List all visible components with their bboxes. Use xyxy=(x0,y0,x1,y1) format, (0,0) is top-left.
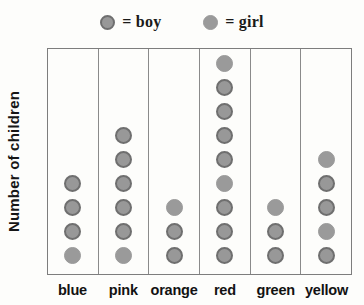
boy-dot-icon xyxy=(216,199,233,216)
girl-dot-icon xyxy=(166,199,183,216)
x-axis-label-green: green xyxy=(250,277,301,303)
dot-plot-area xyxy=(47,48,352,275)
girl-dot-icon xyxy=(318,223,335,240)
legend-item-girl: = girl xyxy=(203,13,263,31)
boy-dot-icon xyxy=(115,175,132,192)
girl-dot-icon xyxy=(115,247,132,264)
dot-column-yellow xyxy=(301,49,351,274)
boy-dot-icon xyxy=(216,103,233,120)
boy-dot-icon xyxy=(115,127,132,144)
girl-dot-icon xyxy=(64,247,81,264)
dot-column-orange xyxy=(149,49,200,274)
girl-dot-icon xyxy=(267,199,284,216)
x-axis-label-red: red xyxy=(199,277,250,303)
boy-dot-icon xyxy=(64,223,81,240)
boy-dot-icon xyxy=(64,199,81,216)
boy-dot-icon xyxy=(318,247,335,264)
boy-dot-icon xyxy=(166,247,183,264)
boy-dot-icon xyxy=(216,79,233,96)
x-axis-label-blue: blue xyxy=(47,277,98,303)
legend-label-boy: = boy xyxy=(122,13,161,31)
dot-column-green xyxy=(251,49,302,274)
boy-dot-icon xyxy=(166,223,183,240)
boy-dot-icon xyxy=(64,175,81,192)
boy-dot-icon xyxy=(267,223,284,240)
x-axis-label-orange: orange xyxy=(149,277,200,303)
y-axis-title: Number of children xyxy=(0,48,28,275)
girl-dot-icon xyxy=(216,175,233,192)
boy-dot-icon xyxy=(216,247,233,264)
dot-column-pink xyxy=(99,49,150,274)
girl-dot-icon xyxy=(216,55,233,72)
x-axis-label-yellow: yellow xyxy=(301,277,352,303)
boy-dot-icon xyxy=(318,175,335,192)
x-axis-labels: bluepinkorangeredgreenyellow xyxy=(47,277,352,303)
legend-item-boy: = boy xyxy=(100,13,161,31)
boy-dot-icon xyxy=(267,247,284,264)
boy-dot-icon xyxy=(115,199,132,216)
boy-dot-icon xyxy=(318,199,335,216)
legend-label-girl: = girl xyxy=(225,13,263,31)
boy-dot-icon xyxy=(115,151,132,168)
girl-dot-icon xyxy=(203,15,218,30)
boy-dot-icon xyxy=(100,15,115,30)
girl-dot-icon xyxy=(318,151,335,168)
x-axis-label-pink: pink xyxy=(98,277,149,303)
chart-legend: = boy = girl xyxy=(0,0,364,44)
dot-column-red xyxy=(200,49,251,274)
boy-dot-icon xyxy=(115,223,132,240)
dot-column-blue xyxy=(48,49,99,274)
boy-dot-icon xyxy=(216,223,233,240)
boy-dot-icon xyxy=(216,127,233,144)
boy-dot-icon xyxy=(216,151,233,168)
y-axis-title-text: Number of children xyxy=(6,91,23,232)
